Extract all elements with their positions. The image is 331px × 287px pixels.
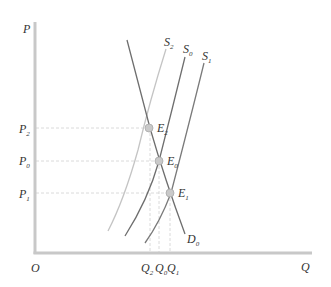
- price-label-p0: P0: [18, 154, 30, 170]
- curve-label-s0: S0: [183, 42, 193, 58]
- equilibrium-point-e1: [166, 189, 174, 197]
- equilibrium-label-e2: E2: [156, 121, 168, 137]
- equilibrium-label-e1: E1: [177, 186, 189, 202]
- demand-curve-d0: [127, 40, 185, 234]
- equilibrium-label-e0: E0: [166, 154, 178, 170]
- origin-label: O: [31, 261, 40, 275]
- curve-label-s2: S2: [164, 35, 174, 51]
- y-axis-label: P: [22, 22, 31, 36]
- supply-demand-diagram: P Q O P2 P0 P1 Q2 Q0 Q1 S2 S0 S1 D0 E2 E…: [0, 0, 331, 287]
- curve-label-s1: S1: [202, 49, 212, 65]
- equilibrium-point-e2: [145, 124, 153, 132]
- curve-label-d0: D0: [186, 232, 200, 248]
- x-axis-label: Q: [301, 260, 310, 274]
- guide-lines: [36, 128, 170, 252]
- equilibrium-point-e0: [155, 157, 163, 165]
- qty-label-q0: Q0: [155, 261, 168, 277]
- price-label-p2: P2: [18, 122, 30, 138]
- price-label-p1: P1: [18, 187, 30, 203]
- qty-label-q1: Q1: [167, 261, 179, 277]
- qty-label-q2: Q2: [141, 261, 154, 277]
